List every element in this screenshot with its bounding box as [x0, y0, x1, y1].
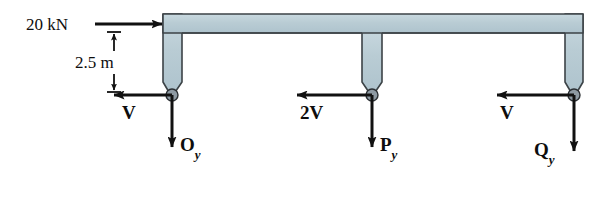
middle-leg: [362, 26, 382, 93]
shear-right-label: V: [500, 103, 514, 122]
shear-left-label: V: [122, 103, 136, 122]
applied-load-label: 20 kN: [26, 16, 68, 33]
top-beam: [163, 14, 583, 33]
reaction-P-label: Py: [380, 135, 397, 158]
free-body-diagram-canvas: [0, 0, 593, 199]
shear-middle-label: 2V: [300, 103, 323, 122]
free-body-diagram-figure: 20 kN 2.5 m V 2V V Oy Py Qy: [0, 0, 593, 199]
frame-member: [163, 14, 583, 93]
reaction-O-label: Oy: [180, 135, 201, 158]
reaction-Q-base: Q: [534, 139, 549, 160]
dimension-label: 2.5 m: [75, 54, 114, 71]
reaction-O-subscript: y: [195, 147, 201, 162]
reaction-Q-subscript: y: [549, 152, 555, 167]
reaction-P-subscript: y: [392, 147, 398, 162]
reaction-P-base: P: [380, 134, 392, 155]
reaction-O-base: O: [180, 134, 195, 155]
reaction-Q-label: Qy: [534, 140, 555, 163]
